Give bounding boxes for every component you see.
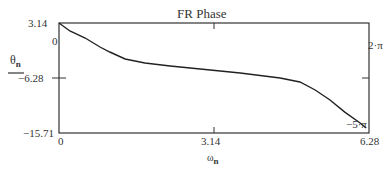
- x-tick-label-right: 6.28: [360, 136, 379, 147]
- chart-title: FR Phase: [177, 6, 226, 22]
- y-tick-label-top: 3.14: [28, 18, 47, 29]
- right-marker-top: 2·π: [368, 40, 383, 51]
- x-tick-label-left: 0: [58, 136, 64, 147]
- x-tick-label-mid: 3.14: [201, 136, 220, 147]
- plot-frame: [59, 23, 369, 133]
- right-marker-bottom: −5·π: [346, 119, 367, 130]
- y-tick-label-zero: 0: [52, 36, 58, 47]
- x-axis-symbol: ω: [207, 152, 214, 163]
- x-axis-subscript: n: [214, 156, 219, 166]
- phase-curve: [59, 23, 366, 128]
- y-axis-label: θn: [10, 53, 21, 69]
- y-axis-subscript: n: [16, 59, 21, 69]
- x-axis-label: ωn: [207, 152, 219, 166]
- y-tick-label-bottom: −15.71: [23, 128, 54, 139]
- y-tick-label-mid: −6.28: [18, 73, 43, 84]
